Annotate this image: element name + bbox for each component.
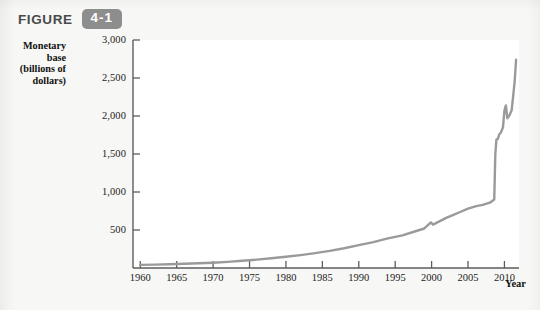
figure-header: FIGURE 4-1 (18, 8, 122, 30)
y-axis-tick-label: 1,000 (66, 186, 126, 197)
figure-page: FIGURE 4-1 Monetary base (billions of do… (0, 0, 540, 310)
monetary-base-line (140, 60, 516, 265)
figure-number-badge: 4-1 (82, 9, 123, 28)
figure-label: FIGURE (18, 12, 73, 27)
chart-container: Monetary base (billions of dollars) 5001… (0, 34, 540, 284)
x-axis-title: Year (505, 278, 526, 289)
y-axis-tick-label: 1,500 (66, 148, 126, 159)
y-axis-tick-label: 2,500 (66, 72, 126, 83)
axis-ticks-group (133, 40, 504, 268)
caption-sliver (150, 303, 520, 310)
y-axis-tick-label: 2,000 (66, 110, 126, 121)
y-axis-tick-label: 500 (66, 224, 126, 235)
y-axis-tick-label: 3,000 (66, 34, 126, 45)
